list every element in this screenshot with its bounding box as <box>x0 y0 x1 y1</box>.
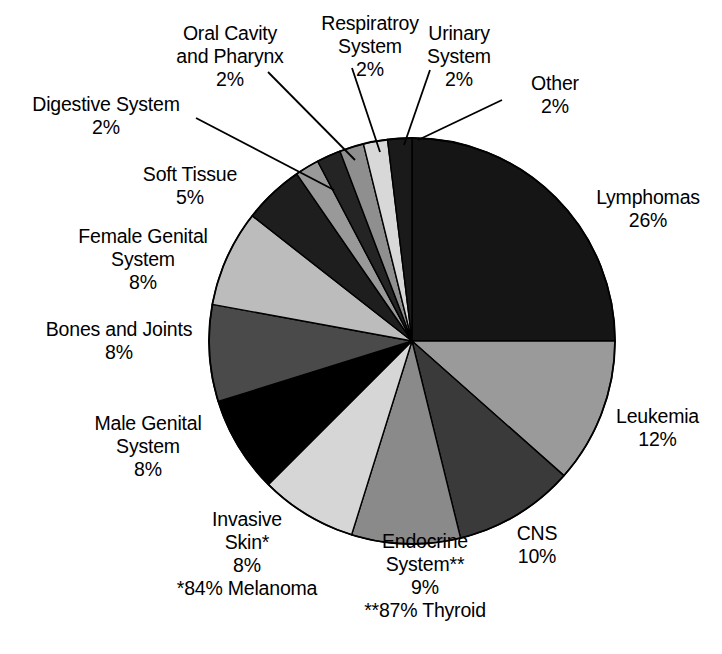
pie-label-line: 8% <box>152 554 342 577</box>
pie-label-line: 2% <box>155 68 305 91</box>
pie-label-line: 8% <box>78 458 218 481</box>
pie-label-cns: CNS10% <box>492 522 582 568</box>
pie-label-line: Skin* <box>152 531 342 554</box>
pie-chart-figure: Oral Cavityand Pharynx2%RespiratroySyste… <box>0 0 722 654</box>
pie-label-line: *84% Melanoma <box>152 577 342 600</box>
pie-label-other: Other2% <box>505 72 605 118</box>
pie-label-line: 2% <box>505 95 605 118</box>
pie-label-line: 5% <box>120 186 260 209</box>
leader-other <box>418 100 502 140</box>
pie-label-lymphomas: Lymphomas26% <box>578 186 718 232</box>
pie-label-line: 2% <box>404 68 514 91</box>
pie-label-line: CNS <box>492 522 582 545</box>
pie-label-line: Oral Cavity <box>155 22 305 45</box>
pie-label-line: System <box>78 435 218 458</box>
pie-label-line: Female Genital <box>68 225 218 248</box>
pie-label-line: 26% <box>578 209 718 232</box>
pie-label-bones-and-joints: Bones and Joints8% <box>24 318 214 364</box>
pie-label-line: 2% <box>16 116 196 139</box>
pie-label-line: and Pharynx <box>155 45 305 68</box>
pie-label-line: Other <box>505 72 605 95</box>
pie-label-line: 12% <box>600 428 715 451</box>
pie-label-soft-tissue: Soft Tissue5% <box>120 163 260 209</box>
pie-label-line: Leukemia <box>600 405 715 428</box>
pie-label-line: System <box>404 45 514 68</box>
pie-label-line: 8% <box>68 271 218 294</box>
pie-label-line: Soft Tissue <box>120 163 260 186</box>
pie-slice[interactable] <box>412 138 615 341</box>
pie-label-line: Invasive <box>152 508 342 531</box>
pie-label-oral-cavity-and-pharynx: Oral Cavityand Pharynx2% <box>155 22 305 91</box>
pie-label-line: Lymphomas <box>578 186 718 209</box>
pie-label-leukemia: Leukemia12% <box>600 405 715 451</box>
pie-label-line: 9% <box>330 576 520 599</box>
pie-label-male-genital-system: Male GenitalSystem8% <box>78 412 218 481</box>
pie-label-urinary-system: UrinarySystem2% <box>404 22 514 91</box>
pie-label-line: Urinary <box>404 22 514 45</box>
pie-label-line: Bones and Joints <box>24 318 214 341</box>
pie-label-line: 10% <box>492 545 582 568</box>
pie-label-line: Male Genital <box>78 412 218 435</box>
pie-label-line: 8% <box>24 341 214 364</box>
pie-label-line: **87% Thyroid <box>330 599 520 622</box>
pie-label-digestive-system: Digestive System2% <box>16 93 196 139</box>
pie-label-line: Digestive System <box>16 93 196 116</box>
pie-label-line: System <box>68 248 218 271</box>
pie-label-female-genital-system: Female GenitalSystem8% <box>68 225 218 294</box>
pie-label-invasive-skin: InvasiveSkin*8%*84% Melanoma <box>152 508 342 600</box>
